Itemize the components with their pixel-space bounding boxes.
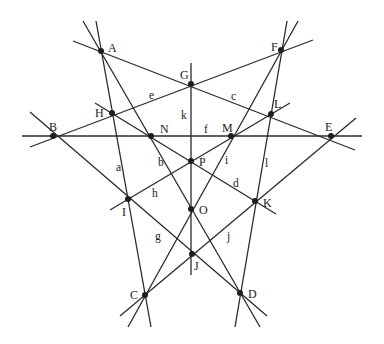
point-A xyxy=(98,48,104,54)
point-label-K: K xyxy=(263,196,272,210)
point-K xyxy=(252,198,258,204)
point-O xyxy=(188,206,194,212)
line-j xyxy=(120,118,356,316)
point-label-L: L xyxy=(274,97,281,111)
point-F xyxy=(278,47,284,53)
point-P xyxy=(188,158,194,164)
point-label-E: E xyxy=(325,120,332,134)
point-J xyxy=(189,251,195,257)
line-label-g: g xyxy=(155,230,161,243)
line-g xyxy=(30,112,267,316)
point-label-O: O xyxy=(199,203,208,217)
point-label-J: J xyxy=(194,259,199,273)
point-label-N: N xyxy=(160,122,169,136)
point-N xyxy=(148,133,154,139)
line-label-c: c xyxy=(231,90,236,102)
line-label-f: f xyxy=(204,123,208,135)
point-label-A: A xyxy=(108,41,117,55)
point-label-P: P xyxy=(199,155,206,169)
point-label-H: H xyxy=(95,106,104,120)
line-label-h: h xyxy=(152,187,158,199)
point-I xyxy=(125,196,131,202)
point-label-M: M xyxy=(222,121,233,135)
line-label-l: l xyxy=(265,157,268,169)
point-label-D: D xyxy=(248,287,257,301)
line-label-d: d xyxy=(233,177,239,189)
line-label-j: j xyxy=(226,230,230,243)
line-label-b: b xyxy=(158,156,164,168)
point-H xyxy=(109,110,115,116)
point-label-B: B xyxy=(49,120,57,134)
line-a xyxy=(96,21,151,327)
point-label-I: I xyxy=(122,205,126,219)
lines-group xyxy=(22,21,362,327)
point-D xyxy=(237,290,243,296)
line-label-e: e xyxy=(149,89,154,101)
line-label-i: i xyxy=(225,154,228,166)
point-G xyxy=(188,81,194,87)
line-c xyxy=(73,41,355,150)
point-label-G: G xyxy=(180,68,189,82)
point-L xyxy=(268,111,274,117)
line-e xyxy=(30,40,313,147)
line-label-a: a xyxy=(116,161,121,173)
line-label-k: k xyxy=(181,109,187,121)
point-C xyxy=(142,292,148,298)
point-label-F: F xyxy=(271,40,278,54)
line-i xyxy=(128,21,298,327)
geometric-diagram: abcdefghijklAFGHLBNMEPIKOJCD xyxy=(0,0,384,344)
point-label-C: C xyxy=(130,288,138,302)
